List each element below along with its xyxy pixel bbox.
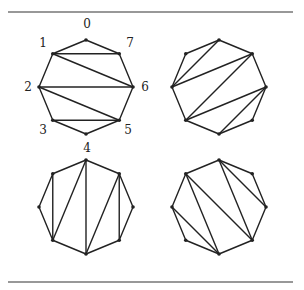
octagon-bottom-right [170, 158, 268, 256]
vertex-label-0: 0 [83, 17, 91, 31]
triangulation-figure: 01234567 [0, 0, 304, 290]
vertex-dot-5 [250, 238, 254, 242]
vertex-dot-3 [184, 238, 188, 242]
vertex-dot-1 [51, 172, 55, 176]
vertex-dot-5 [117, 118, 121, 122]
vertex-dot-3 [51, 238, 55, 242]
vertex-dot-7 [117, 172, 121, 176]
vertex-dot-2 [170, 85, 174, 89]
vertex-dot-0 [84, 158, 88, 162]
vertex-dot-0 [217, 158, 221, 162]
diagonal-0-6 [219, 160, 266, 207]
octagon-bottom-left [37, 158, 135, 256]
vertex-dot-4 [217, 252, 221, 256]
vertex-dot-7 [117, 52, 121, 56]
octagon-top-right [170, 38, 268, 136]
vertex-label-2: 2 [24, 80, 32, 94]
octagon-panels [37, 38, 268, 256]
octagon-top-left [37, 38, 135, 136]
diagonal-0-2 [172, 40, 219, 87]
vertex-dot-6 [131, 85, 135, 89]
vertex-dot-1 [184, 172, 188, 176]
vertex-dot-0 [84, 38, 88, 42]
vertex-dot-6 [264, 205, 268, 209]
vertex-label-6: 6 [141, 80, 149, 94]
vertex-label-4: 4 [83, 141, 91, 155]
vertex-dot-3 [51, 118, 55, 122]
vertex-dot-5 [117, 238, 121, 242]
vertex-label-7: 7 [126, 36, 134, 50]
vertex-dot-1 [51, 52, 55, 56]
vertex-dot-1 [184, 52, 188, 56]
vertex-label-1: 1 [39, 36, 47, 50]
vertex-dot-7 [250, 172, 254, 176]
diagonal-6-4 [219, 87, 266, 134]
vertex-dot-3 [184, 118, 188, 122]
vertex-label-3: 3 [39, 123, 47, 137]
vertex-dot-7 [250, 52, 254, 56]
vertex-dot-6 [264, 85, 268, 89]
vertex-dot-4 [217, 132, 221, 136]
vertex-dot-2 [170, 205, 174, 209]
vertex-dot-5 [250, 118, 254, 122]
vertex-dot-4 [84, 252, 88, 256]
diagonal-2-4 [172, 207, 219, 254]
vertex-dot-0 [217, 38, 221, 42]
vertex-dot-6 [131, 205, 135, 209]
vertex-dot-4 [84, 132, 88, 136]
vertex-dot-2 [37, 85, 41, 89]
vertex-dot-2 [37, 205, 41, 209]
vertex-label-5: 5 [124, 123, 132, 137]
